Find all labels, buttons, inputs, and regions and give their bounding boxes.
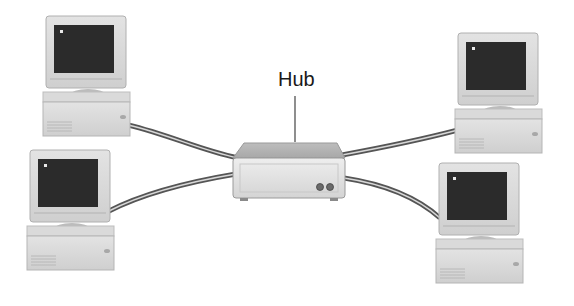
hub-indicator-light-1 xyxy=(317,184,324,191)
hub-label: Hub xyxy=(278,68,315,91)
computer-top-right xyxy=(455,33,542,153)
computer-top-left xyxy=(43,16,130,136)
network-diagram xyxy=(0,0,574,306)
computer-bottom-right xyxy=(436,163,523,283)
cable-bottom-left xyxy=(109,174,236,211)
hub-indicator-light-2 xyxy=(327,184,334,191)
cable-bottom-right xyxy=(344,178,440,218)
cable-top-left xyxy=(128,125,238,158)
hub-device xyxy=(233,143,345,201)
cable-top-right xyxy=(342,130,458,155)
computer-bottom-left xyxy=(27,150,114,270)
